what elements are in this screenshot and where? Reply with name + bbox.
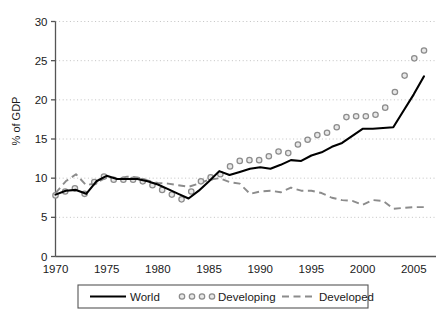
x-axis-tick-label: 1975 — [94, 263, 120, 275]
data-point-developing — [295, 142, 300, 147]
legend-dot — [189, 294, 194, 299]
legend-dot — [199, 294, 204, 299]
data-point-developing — [412, 56, 417, 61]
line-chart: 051015202530 197019751980198519901995200… — [0, 0, 445, 315]
legend-dot — [179, 294, 184, 299]
x-axis-tick-label: 2000 — [350, 263, 376, 275]
data-point-developing — [276, 149, 281, 154]
data-point-developing — [227, 164, 232, 169]
y-axis-tick-label: 20 — [35, 94, 48, 106]
data-point-developing — [237, 158, 242, 163]
data-point-developing — [383, 105, 388, 110]
data-point-developing — [353, 114, 358, 119]
y-axis-tick-label: 10 — [35, 172, 48, 184]
data-point-developing — [256, 157, 261, 162]
data-point-developing — [402, 73, 407, 78]
data-point-developing — [324, 130, 329, 135]
data-point-developing — [344, 114, 349, 119]
y-axis-tick-label: 5 — [41, 211, 47, 223]
legend-label-world: World — [130, 291, 160, 303]
data-point-developing — [179, 197, 184, 202]
y-axis-tick-label: 15 — [35, 133, 48, 145]
x-axis-tick-label: 1995 — [299, 263, 325, 275]
data-point-developing — [334, 125, 339, 130]
x-axis-tick-label: 2005 — [401, 263, 427, 275]
legend-label-developed: Developed — [319, 291, 374, 303]
y-axis-tick-label: 0 — [41, 251, 47, 263]
data-point-developing — [315, 132, 320, 137]
y-axis-tick-label: 25 — [35, 55, 48, 67]
data-point-developing — [363, 114, 368, 119]
data-point-developing — [189, 189, 194, 194]
data-point-developing — [305, 137, 310, 142]
x-axis-tick-label: 1990 — [247, 263, 273, 275]
data-point-developing — [247, 157, 252, 162]
y-axis-tick-label: 30 — [35, 16, 48, 28]
legend-label-developing: Developing — [218, 291, 276, 303]
x-axis-tick-label: 1980 — [145, 263, 171, 275]
legend: World Developing Developed — [78, 285, 374, 308]
x-axis-tick-label: 1970 — [43, 263, 69, 275]
data-point-developing — [198, 179, 203, 184]
data-point-developing — [373, 112, 378, 117]
data-point-developing — [266, 154, 271, 159]
data-point-developing — [421, 48, 426, 53]
legend-dot — [209, 294, 214, 299]
y-axis-title: % of GDP — [10, 97, 22, 146]
data-point-developing — [286, 150, 291, 155]
x-axis-tick-label: 1985 — [196, 263, 222, 275]
data-point-developing — [392, 89, 397, 94]
